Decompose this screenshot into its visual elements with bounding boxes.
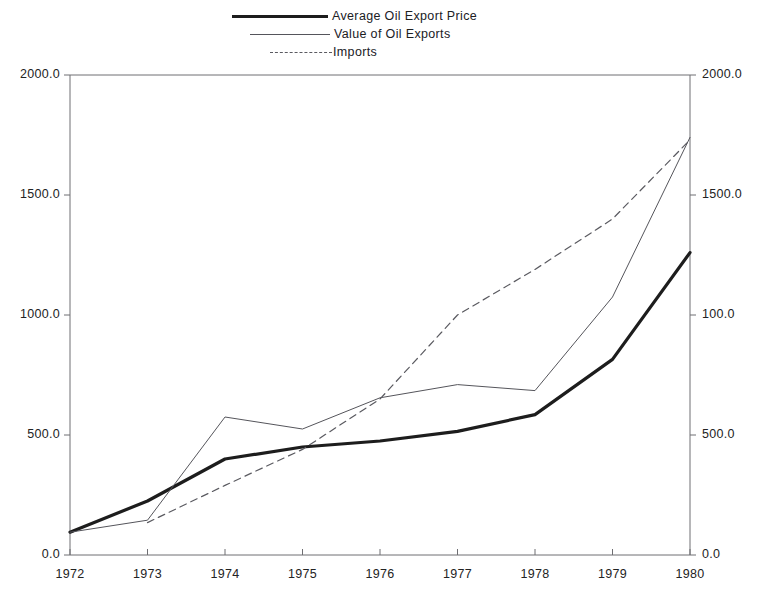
y-axis-left-tick-label: 1000.0 xyxy=(2,307,60,321)
y-axis-right-tick-label: 500.0 xyxy=(702,427,763,441)
series-line-2 xyxy=(148,140,691,523)
plot-canvas xyxy=(0,0,763,598)
y-axis-right-tick-label: 0.0 xyxy=(702,547,763,561)
series-line-0 xyxy=(70,253,690,533)
y-axis-right-tick-label: 1500.0 xyxy=(702,187,763,201)
y-axis-right-tick-label: 100.0 xyxy=(702,307,763,321)
y-axis-left-tick-label: 1500.0 xyxy=(2,187,60,201)
x-axis-tick-label: 1980 xyxy=(663,567,717,581)
y-axis-right-tick-label: 2000.0 xyxy=(702,67,763,81)
x-axis-tick-label: 1977 xyxy=(431,567,485,581)
x-axis-tick-label: 1979 xyxy=(586,567,640,581)
y-axis-left-tick-label: 500.0 xyxy=(2,427,60,441)
line-chart-figure: Average Oil Export Price Value of Oil Ex… xyxy=(0,0,763,598)
x-axis-tick-label: 1976 xyxy=(353,567,407,581)
x-axis-tick-label: 1978 xyxy=(508,567,562,581)
x-axis-tick-label: 1972 xyxy=(43,567,97,581)
x-axis-tick-label: 1975 xyxy=(276,567,330,581)
plot-area: 0.00.0500.0500.01000.0100.01500.01500.02… xyxy=(0,0,763,598)
y-axis-left-tick-label: 2000.0 xyxy=(2,67,60,81)
x-axis-tick-label: 1973 xyxy=(121,567,175,581)
x-axis-tick-label: 1974 xyxy=(198,567,252,581)
y-axis-left-tick-label: 0.0 xyxy=(2,547,60,561)
series-line-1 xyxy=(70,137,690,532)
